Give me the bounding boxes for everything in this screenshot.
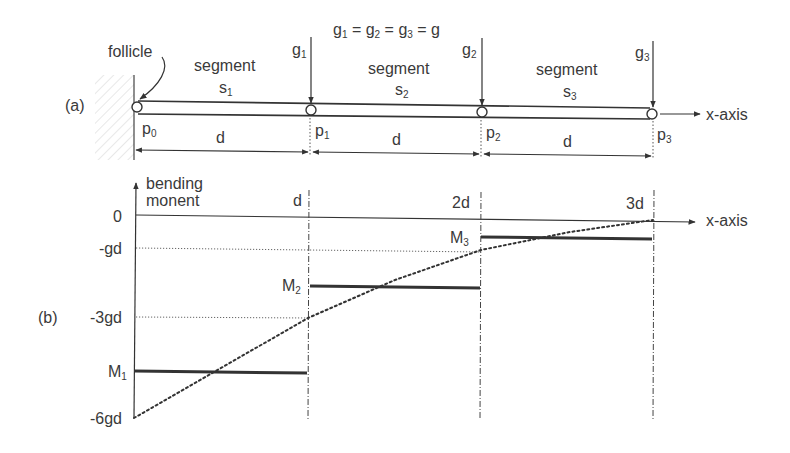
moment-label-m3: M3 [450,230,469,248]
joint-p1 [306,105,316,115]
follicle-label: follicle [108,44,152,60]
x-tick-d: d [293,193,302,209]
segment-label-s2: segment [368,61,429,77]
y-axis [134,183,136,418]
y-tick-minus-3gd: -3gd [80,310,122,326]
segment-sym-s2: s2 [395,82,409,100]
vline-3d [653,190,654,420]
point-label-p1: p1 [315,123,329,141]
equation-label: g1 = g2 = g3 = g [333,22,440,40]
vline-2d [480,192,481,420]
bending-moment-curve [134,220,653,418]
rod-top-edge [138,101,650,108]
eq-g1: g1 [333,21,347,38]
dimension-arrow-3 [484,154,651,156]
segment-sym-s3: s3 [563,84,577,102]
panel-b [134,183,695,420]
force-label-g2: g2 [462,42,476,60]
moment-label-m2: M2 [282,278,301,296]
joint-p2 [477,107,487,117]
point-label-p3: p3 [657,127,671,145]
dimension-label-2: d [392,132,401,148]
point-label-p2: p2 [486,125,500,143]
segment-label-s3: segment [536,62,597,78]
y-tick-minus-6gd: -6gd [80,411,122,427]
point-label-p0: p0 [142,121,156,139]
segment-sym-s1: s1 [219,80,233,98]
force-label-g3: g3 [635,45,649,63]
vline-d [308,190,309,420]
y-axis-label-line1: bending [146,176,203,192]
guide-minus-3gd [136,317,310,318]
x-axis-b [136,215,695,222]
y-axis-label-line2: monent [146,193,199,209]
y-tick-minus-gd: -gd [80,241,122,257]
panel-b-label: (b) [38,310,58,326]
x-axis-label-a: x-axis [706,107,748,123]
dimension-label-1: d [216,130,225,146]
x-axis-label-b: x-axis [706,213,748,229]
y-tick-0: 0 [80,209,122,225]
follicle-pointer-arrow [140,57,165,99]
rod-bottom-edge [138,114,650,119]
moment-bar-m1 [135,371,307,373]
dimension-arrow-1 [136,150,308,152]
panel-a-label: (a) [65,98,85,114]
moment-bar-m3 [481,237,652,239]
force-label-g1: g1 [292,42,306,60]
joint-p0 [132,102,142,112]
x-tick-3d: 3d [626,196,644,212]
follicle-wall-hatch [95,75,134,160]
moment-label-m1: M1 [108,364,127,382]
x-tick-2d: 2d [452,195,470,211]
dimension-label-3: d [563,134,572,150]
segment-label-s1: segment [194,58,255,74]
dimension-arrow-2 [313,152,479,154]
joint-p3 [647,109,657,119]
moment-bar-m2 [310,286,480,288]
